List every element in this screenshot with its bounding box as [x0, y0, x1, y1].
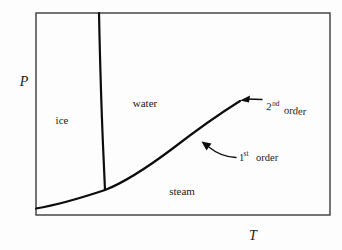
first-order-arrow-shaft — [210, 148, 237, 158]
annotation-second-order: 2 nd order — [240, 96, 307, 118]
first-order-superscript: st — [244, 149, 250, 158]
annotation-first-order: 1 st order — [202, 142, 279, 164]
y-axis-label: P — [19, 74, 29, 89]
region-label-ice: ice — [56, 114, 69, 126]
first-order-word: order — [256, 152, 279, 163]
region-label-steam: steam — [169, 185, 195, 197]
second-order-superscript: nd — [272, 98, 280, 108]
x-axis-label: T — [249, 228, 258, 243]
second-order-word: order — [284, 104, 307, 117]
diagram-canvas: P T ice water steam 2 nd order 1 st orde… — [0, 0, 342, 250]
phase-diagram-figure: P T ice water steam 2 nd order 1 st orde… — [0, 0, 342, 250]
first-order-arrow-head — [202, 142, 212, 151]
fusion-curve — [99, 13, 105, 190]
second-order-arrow-head — [240, 96, 250, 103]
region-label-water: water — [133, 97, 158, 109]
